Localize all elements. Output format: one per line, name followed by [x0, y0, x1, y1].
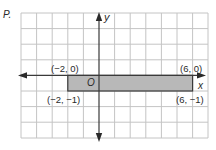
origin-label: O — [87, 78, 95, 88]
vertex-label-top-right: (6, 0) — [180, 64, 202, 74]
vertex-label-bottom-left: (−2, −1) — [47, 95, 80, 105]
y-axis-label: y — [104, 12, 110, 23]
vertex-label-top-left: (−2, 0) — [51, 64, 79, 74]
vertex-label-bottom-right: (6, −1) — [176, 95, 204, 105]
problem-label: P. — [3, 10, 11, 20]
x-axis-label: x — [198, 81, 203, 91]
x-axis-left-arrow-icon — [18, 72, 27, 78]
